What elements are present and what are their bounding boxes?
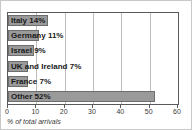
bar-series: Italy 14%Germany 11%Israel 9%UK and Irel… [8, 13, 178, 104]
x-axis: 0102030405060 [7, 105, 179, 117]
bar-data-label: Other 52% [11, 91, 51, 102]
bar-row: Italy 14% [8, 15, 178, 26]
x-axis-label: % of total arrivals [7, 118, 61, 125]
bar-data-label: Italy 14% [11, 15, 45, 26]
x-tick-label: 50 [145, 108, 153, 115]
bar-data-label: UK and Ireland 7% [11, 61, 81, 72]
x-tick-label: 10 [31, 108, 39, 115]
bar-row: Israel 9% [8, 45, 178, 56]
x-tick-label: 0 [5, 108, 9, 115]
x-tick-label: 20 [60, 108, 68, 115]
chart-figure: Italy 14%Germany 11%Israel 9%UK and Irel… [0, 0, 192, 130]
x-tick-label: 30 [88, 108, 96, 115]
x-tick-label: 40 [116, 108, 124, 115]
bar-row: Other 52% [8, 91, 178, 102]
bar-data-label: France 7% [11, 76, 51, 87]
x-tick-label: 60 [173, 108, 181, 115]
bar-row: France 7% [8, 76, 178, 87]
plot-area: Italy 14%Germany 11%Israel 9%UK and Irel… [7, 12, 179, 105]
bar-row: Germany 11% [8, 30, 178, 41]
bar-row: UK and Ireland 7% [8, 61, 178, 72]
bar-data-label: Germany 11% [11, 30, 63, 41]
bar-data-label: Israel 9% [11, 45, 46, 56]
